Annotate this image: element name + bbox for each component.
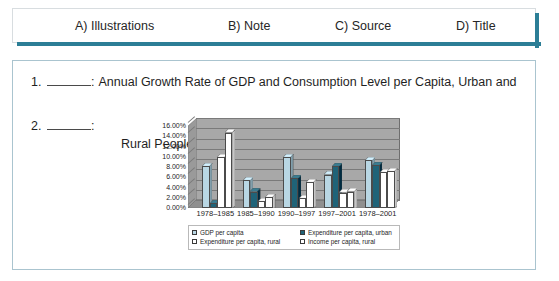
x-axis-tick-labels: 1978–19851985–19901990–19971997–20011978… bbox=[188, 209, 406, 221]
legend-swatch-icon bbox=[192, 230, 197, 235]
options-bar-shadow-bottom bbox=[17, 42, 541, 46]
bar bbox=[225, 133, 233, 208]
question-item-1: 1. : Annual Growth Rate of GDP and Consu… bbox=[31, 73, 523, 91]
y-axis-tick-labels: 16.00%14.00%12.00%10.00%8.00%6.00%4.00%2… bbox=[144, 118, 186, 208]
answer-option-b[interactable]: B) Note bbox=[228, 19, 270, 33]
legend-swatch-icon bbox=[300, 239, 305, 244]
y-axis-tick: 8.00% bbox=[166, 163, 186, 170]
bar bbox=[283, 157, 291, 208]
bar bbox=[347, 192, 355, 208]
bar bbox=[250, 192, 258, 208]
y-axis-tick: 0.00% bbox=[166, 204, 186, 211]
question-1-number: 1. bbox=[31, 75, 47, 89]
x-axis-tick: 1985–1990 bbox=[236, 209, 277, 218]
bar bbox=[202, 166, 210, 208]
y-axis-tick: 4.00% bbox=[166, 184, 186, 191]
y-axis-tick: 14.00% bbox=[162, 132, 186, 139]
bar bbox=[332, 166, 340, 208]
y-axis-tick: 10.00% bbox=[162, 153, 186, 160]
y-axis-tick: 16.00% bbox=[162, 122, 186, 129]
chart-plot-area bbox=[188, 118, 400, 208]
legend-item-expenditure-urban: Expenditure per capita, urban bbox=[300, 228, 392, 237]
bar bbox=[217, 157, 225, 208]
bar bbox=[372, 165, 380, 208]
legend-label: GDP per capita bbox=[200, 228, 244, 237]
chart-bars-layer bbox=[188, 118, 400, 208]
chart-legend: GDP per capita Expenditure per capita, u… bbox=[188, 225, 400, 250]
answer-options-bar: A) Illustrations B) Note C) Source D) Ti… bbox=[12, 8, 536, 43]
question-item-2: 2. : bbox=[31, 117, 98, 133]
question-2-number: 2. bbox=[31, 119, 47, 133]
bar bbox=[299, 198, 307, 208]
y-axis-tick: 2.00% bbox=[166, 194, 186, 201]
bar bbox=[210, 203, 218, 208]
legend-row-1: GDP per capita Expenditure per capita, u… bbox=[192, 228, 396, 237]
question-1-blank-input[interactable] bbox=[47, 73, 91, 86]
bar bbox=[339, 193, 347, 208]
bar bbox=[258, 201, 266, 208]
x-axis-tick: 1978–1985 bbox=[195, 209, 236, 218]
bar bbox=[265, 197, 273, 208]
bar bbox=[324, 175, 332, 208]
bar bbox=[291, 178, 299, 208]
legend-item-gdp-per-capita: GDP per capita bbox=[192, 228, 300, 237]
question-1-text: Annual Growth Rate of GDP and Consumptio… bbox=[98, 74, 523, 91]
x-axis-tick: 1997–2001 bbox=[317, 209, 358, 218]
bar-chart-figure: 16.00%14.00%12.00%10.00%8.00%6.00%4.00%2… bbox=[144, 118, 444, 256]
x-axis-tick: 1990–1997 bbox=[276, 209, 317, 218]
answer-option-a[interactable]: A) Illustrations bbox=[75, 19, 154, 33]
answer-option-c[interactable]: C) Source bbox=[335, 19, 391, 33]
legend-swatch-icon bbox=[300, 230, 305, 235]
y-axis-tick: 6.00% bbox=[166, 173, 186, 180]
bar bbox=[380, 172, 388, 208]
question-1-colon: : bbox=[91, 75, 94, 89]
y-axis-tick: 12.00% bbox=[162, 143, 186, 150]
chart-plot-wrapper: 16.00%14.00%12.00%10.00%8.00%6.00%4.00%2… bbox=[144, 118, 444, 223]
legend-label: Income per capita, rural bbox=[308, 237, 375, 246]
bar bbox=[243, 180, 251, 208]
bar bbox=[387, 171, 395, 208]
question-2-blank-input[interactable] bbox=[47, 117, 91, 130]
legend-row-2: Expenditure per capita, rural Income per… bbox=[192, 237, 396, 246]
legend-label: Expenditure per capita, urban bbox=[308, 228, 392, 237]
legend-label: Expenditure per capita, rural bbox=[200, 237, 280, 246]
bar bbox=[306, 182, 314, 208]
bar bbox=[365, 160, 373, 208]
x-axis-tick: 1978–2001 bbox=[357, 209, 398, 218]
question-2-colon: : bbox=[91, 119, 94, 133]
legend-item-income-rural: Income per capita, rural bbox=[300, 237, 375, 246]
question-panel: 1. : Annual Growth Rate of GDP and Consu… bbox=[12, 60, 536, 270]
answer-option-d[interactable]: D) Title bbox=[456, 19, 496, 33]
legend-item-expenditure-rural: Expenditure per capita, rural bbox=[192, 237, 300, 246]
legend-swatch-icon bbox=[192, 239, 197, 244]
